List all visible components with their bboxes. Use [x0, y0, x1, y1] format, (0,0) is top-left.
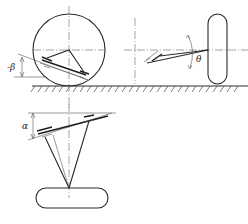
alpha-label: α — [22, 121, 28, 131]
front-view: θ — [124, 14, 248, 84]
ground-hatch — [31, 86, 238, 92]
wheel-geometry-diagram: -β θ — [0, 0, 248, 224]
arm-left — [45, 137, 69, 188]
beta-label: -β — [7, 62, 15, 72]
theta-label: θ — [196, 54, 202, 64]
side-view: -β — [7, 6, 248, 110]
top-view: α — [22, 104, 116, 208]
arm-right — [69, 121, 89, 188]
arm-middle — [53, 135, 69, 188]
wheel-section — [208, 14, 227, 84]
arm-bar — [38, 116, 108, 134]
wheel-top — [36, 188, 108, 208]
